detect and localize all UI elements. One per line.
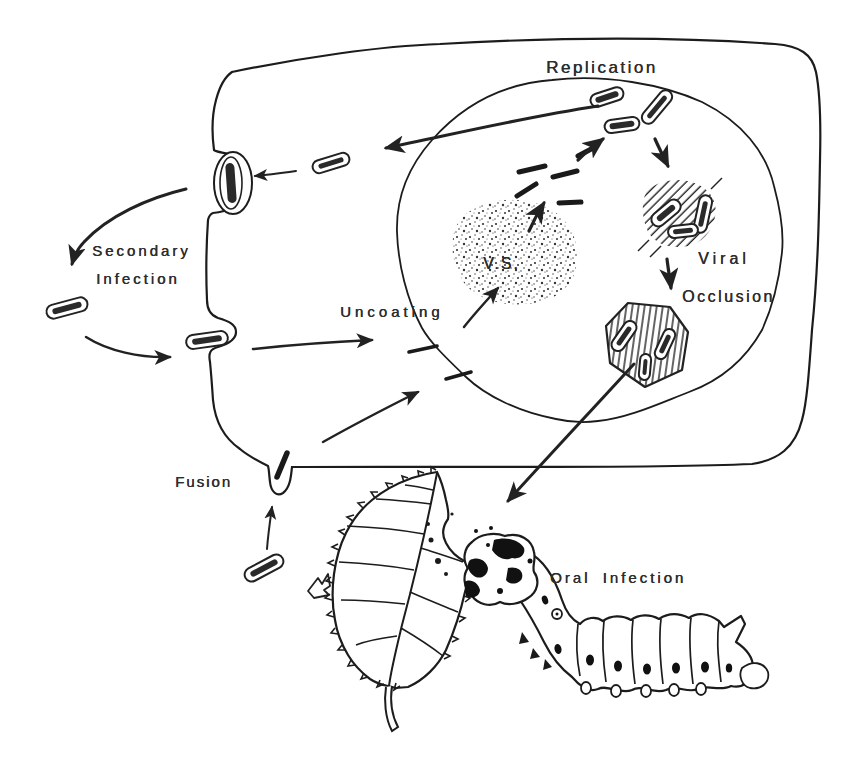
budding-virion [214,152,252,214]
arrow-entry-to-uncoating [253,340,372,349]
label-secondary-infection-line1: Secondary [92,242,191,259]
label-virogenic-stroma: V.S. [483,255,520,273]
arrow-fusion-entry [267,507,272,549]
label-fusion: Fusion [175,473,232,490]
free-virion-top [311,151,351,175]
arrow-occlusion-to-larva [508,364,634,501]
label-secondary-infection-line2: Infection [96,270,180,287]
label-viral-occlusion-line2: Occlusion [682,288,775,306]
arrow-virion-to-endocytosis [86,337,170,357]
mature-occlusion-body [606,303,688,387]
replicated-virions [589,86,675,134]
diagram-canvas [0,0,852,770]
arrow-nucleocapsids-to-virions [578,139,603,160]
endocytosed-virion [185,330,229,350]
label-viral-occlusion-line1: Viral [698,250,750,268]
arrow-occlusion-maturation [667,259,671,288]
free-virion-bottom [242,552,286,584]
free-virion-left [45,296,89,320]
label-oral-infection: Oral Infection [550,569,686,586]
caterpillar-illustration [464,526,768,697]
flow-arrows [72,106,671,549]
fusion-nucleocapsid [277,453,287,477]
forming-occlusion-body [638,178,722,257]
label-replication: Replication [546,58,658,78]
arrow-replication-to-bud [386,106,598,148]
leaf-illustration [325,467,470,731]
arrow-virion-to-membrane [255,171,296,176]
release-open-arrow [308,574,330,598]
label-uncoating: Uncoating [340,303,444,320]
arrow-fusion-to-uncoating [323,392,418,442]
baculovirus-lifecycle-diagram: Replication Secondary Infection Uncoatin… [0,0,852,770]
caterpillar-head [464,526,537,605]
virogenic-stroma [452,200,577,305]
arrow-virions-to-occlusion [655,139,668,166]
